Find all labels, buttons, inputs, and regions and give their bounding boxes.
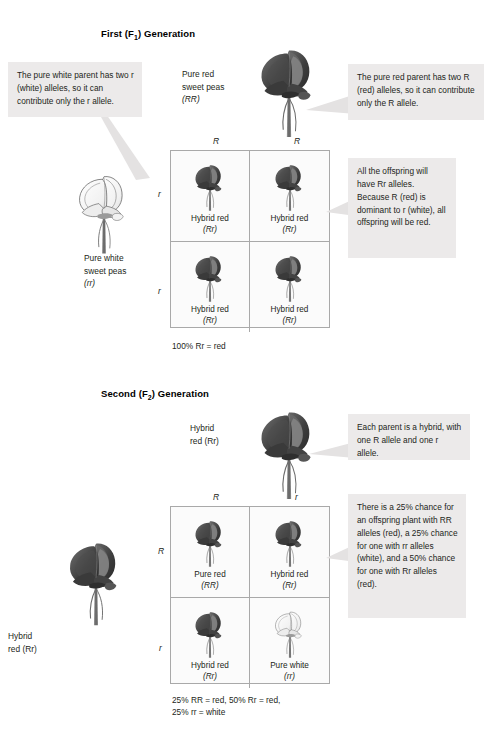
f1-left-parent-label: Pure white sweet peas (rr) <box>84 252 156 290</box>
f2-cell-1-caption: Hybrid red (Rr) <box>271 569 309 591</box>
f1-cell-0: Hybrid red (Rr) <box>171 151 250 242</box>
f2-column-header-0: R <box>213 492 219 502</box>
f2-column-header-1: r <box>295 492 298 502</box>
f1-cell-3-flower-red <box>271 248 309 304</box>
f2-cell-3-caption: Pure white (rr) <box>270 660 309 682</box>
f1-cell-1: Hybrid red (Rr) <box>250 151 329 242</box>
f2-cell-3-flower-white <box>271 604 309 660</box>
f2-top-parent-label: Hybrid red (Rr) <box>190 422 256 447</box>
f1-punnett-square: Hybrid red (Rr) Hybrid red (Rr) Hybrid r… <box>170 150 330 328</box>
f1-cell-2-flower-red <box>191 248 229 304</box>
f1-section-title: First (F1) Generation <box>101 28 195 41</box>
f2-row-header-0: R <box>158 546 164 556</box>
f1-row-header-1: r <box>158 286 161 296</box>
f2-left-parent-label: Hybrid red (Rr) <box>8 630 80 655</box>
f1-top-parent-flower-red <box>253 34 325 142</box>
f2-result: 25% RR = red, 50% Rr = red, 25% rr = whi… <box>172 694 362 719</box>
f1-left-parent-flower-white <box>72 162 136 258</box>
f1-cell-3: Hybrid red (Rr) <box>250 242 329 332</box>
f1-cell-2: Hybrid red (Rr) <box>171 242 250 332</box>
f1-row-header-0: r <box>158 189 161 199</box>
f1-cell-0-flower-red <box>191 157 229 213</box>
f1-column-header-1: R <box>294 136 300 146</box>
f1-right-callout: The pure red parent has two R (red) alle… <box>348 64 484 120</box>
f2-cell-3: Pure white (rr) <box>250 598 329 688</box>
f2-cell-0-flower-red <box>191 513 229 569</box>
f2-cell-2: Hybrid red (Rr) <box>171 598 250 688</box>
f2-cell-0-caption: Pure red (RR) <box>194 569 225 591</box>
f1-cell-1-flower-red <box>271 157 309 213</box>
f2-row-header-1: r <box>159 643 162 653</box>
f1-result: 100% Rr = red <box>172 340 226 352</box>
f1-cell-2-caption: Hybrid red (Rr) <box>191 304 229 326</box>
f2-punnett-square: Pure red (RR) Hybrid red (Rr) Hybrid red… <box>170 506 330 684</box>
f1-top-parent-label: Pure red sweet peas (RR) <box>182 68 252 106</box>
f1-column-header-0: R <box>213 136 219 146</box>
f2-section-title: Second (F2) Generation <box>101 388 209 401</box>
f2-cell-2-caption: Hybrid red (Rr) <box>191 660 229 682</box>
f2-cell-1: Hybrid red (Rr) <box>250 507 329 598</box>
f1-cell-0-caption: Hybrid red (Rr) <box>191 213 229 235</box>
f1-left-callout: The pure white parent has two r (white) … <box>8 62 142 117</box>
f2-cell-0: Pure red (RR) <box>171 507 250 598</box>
f1-offspring-callout: All the offspring will have Rr alleles. … <box>348 158 456 258</box>
f2-offspring-callout: There is a 25% chance for an offspring p… <box>348 494 466 618</box>
f2-left-parent-flower-red <box>62 528 130 630</box>
f1-cell-3-caption: Hybrid red (Rr) <box>271 304 309 326</box>
f2-cell-1-flower-red <box>271 513 309 569</box>
f2-parent-callout: Each parent is a hybrid, with one R alle… <box>348 414 470 460</box>
f2-cell-2-flower-red <box>191 604 229 660</box>
f1-cell-1-caption: Hybrid red (Rr) <box>271 213 309 235</box>
